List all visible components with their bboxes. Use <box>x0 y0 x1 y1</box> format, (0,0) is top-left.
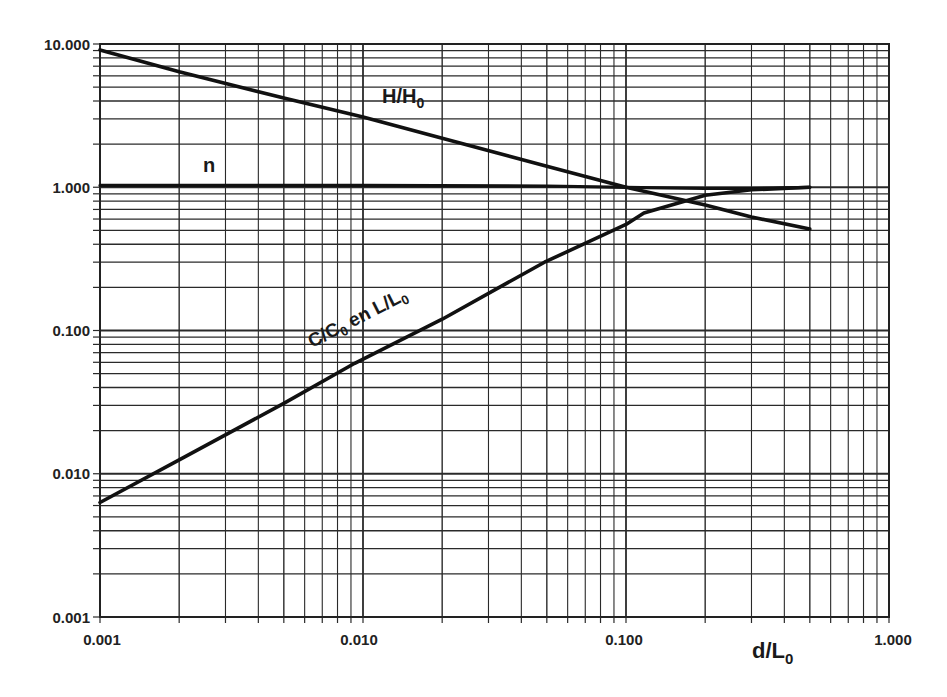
y-tick-label-10: 10.000 <box>44 36 90 53</box>
curve-label-n: n <box>203 154 215 176</box>
curve-label-h-h0: H/H0 <box>382 85 424 111</box>
y-tick-label-0.001: 0.001 <box>52 609 90 626</box>
y-tick-label-0.1: 0.100 <box>52 322 90 339</box>
x-tick-label-0.001: 0.001 <box>83 631 121 648</box>
x-tick-label-0.01: 0.010 <box>340 631 378 648</box>
y-tick-label-1: 1.000 <box>52 179 90 196</box>
data-curves <box>100 50 810 503</box>
axis-ticks <box>93 44 889 623</box>
x-tick-label-0.1: 0.100 <box>605 631 643 648</box>
x-axis-title: d/L0 <box>752 638 793 667</box>
h-h0-curve <box>100 50 810 229</box>
x-tick-label-1: 1.000 <box>874 631 912 648</box>
chart-figure: 10.000 1.000 0.100 0.010 0.001 0.001 0.0… <box>0 0 947 697</box>
y-tick-label-0.01: 0.010 <box>52 465 90 482</box>
